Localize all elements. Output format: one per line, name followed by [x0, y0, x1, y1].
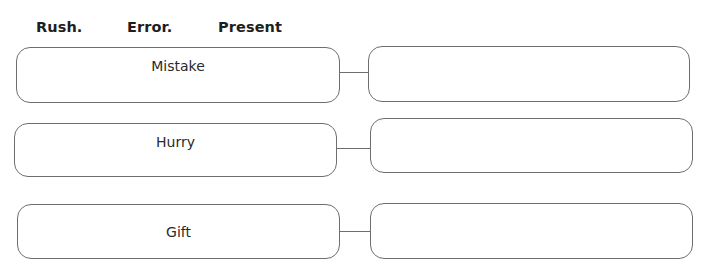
connector-line-2 — [337, 148, 370, 149]
connector-line-1 — [340, 72, 368, 73]
given-word-box-1: Mistake — [16, 47, 340, 103]
given-word-label-3: Gift — [18, 224, 339, 240]
given-word-label-2: Hurry — [15, 134, 336, 150]
word-bank-item-error: Error. — [127, 19, 172, 35]
answer-box-1[interactable] — [368, 46, 690, 102]
given-word-box-3: Gift — [17, 204, 340, 259]
given-word-box-2: Hurry — [14, 123, 337, 177]
word-bank-item-rush: Rush. — [36, 19, 82, 35]
word-bank-item-present: Present — [218, 19, 282, 35]
given-word-label-1: Mistake — [17, 58, 339, 74]
word-bank: Rush. Error. Present — [0, 19, 704, 39]
connector-line-3 — [340, 231, 370, 232]
answer-box-2[interactable] — [370, 118, 693, 173]
answer-box-3[interactable] — [370, 203, 693, 259]
